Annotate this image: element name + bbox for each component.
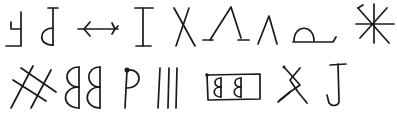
left-arrow-symbol [78, 22, 118, 36]
small-inverted-v-symbol [258, 16, 277, 44]
mirrored-b-symbol [42, 8, 58, 45]
p-with-dot-symbol [125, 68, 140, 109]
capital-i-symbol [135, 8, 153, 46]
looped-x-symbol [278, 66, 307, 104]
hash-crosshatch-symbol [11, 66, 56, 108]
large-inverted-v-symbol [203, 7, 249, 40]
mirrored-f-symbol [6, 12, 21, 46]
x-cross-symbol [174, 8, 195, 46]
boxed-mirrored-bb-symbol [205, 73, 260, 100]
three-vertical-lines-symbol [158, 68, 177, 108]
dome-symbol [293, 28, 336, 42]
mirrored-double-b-symbol [66, 67, 101, 108]
asterisk-star-symbol [356, 4, 394, 43]
capital-j-symbol [327, 64, 346, 105]
symbol-sheet: Handwritten symbol sheet [0, 0, 397, 115]
